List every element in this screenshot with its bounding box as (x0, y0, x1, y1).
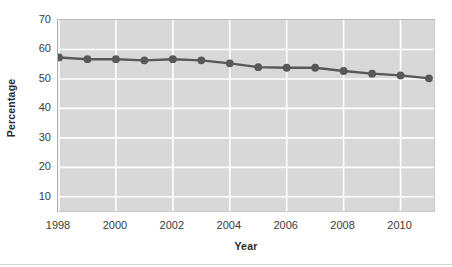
x-axis-tick-label: 2008 (330, 219, 354, 231)
data-point-marker (368, 70, 376, 78)
data-point-marker (311, 64, 319, 72)
x-axis-tick-label: 2004 (217, 219, 241, 231)
y-axis-tick-label: 30 (18, 131, 56, 143)
y-axis-tick-label: 70 (18, 13, 56, 25)
data-point-marker (254, 63, 262, 71)
x-axis-tick-label: 2010 (387, 219, 411, 231)
x-axis-tick-label: 2002 (160, 219, 184, 231)
line-chart-figure: Percentage 70605040302010 19982000200220… (0, 0, 452, 267)
plot-svg (58, 20, 434, 211)
plot-area (57, 19, 435, 212)
y-axis-tick-label: 10 (18, 190, 56, 202)
data-point-marker (169, 55, 177, 63)
y-axis-tick-label: 40 (18, 101, 56, 113)
data-point-marker (226, 59, 234, 67)
horizontal-gridlines (58, 49, 434, 196)
data-point-markers (58, 54, 433, 83)
y-axis-title-label: Percentage (5, 78, 17, 137)
x-axis-title: Year (57, 240, 435, 252)
y-axis-tick-label: 20 (18, 160, 56, 172)
data-point-marker (397, 72, 405, 80)
data-point-marker (340, 67, 348, 75)
x-axis-tick-labels: 1998200020022004200620082010 (0, 219, 452, 239)
data-point-marker (112, 55, 120, 63)
bottom-divider (0, 264, 452, 265)
x-axis-tick-label: 2000 (103, 219, 127, 231)
y-axis-tick-label: 60 (18, 42, 56, 54)
x-axis-tick-label: 2006 (273, 219, 297, 231)
data-point-marker (84, 55, 92, 63)
data-point-marker (197, 56, 205, 64)
y-axis-tick-label: 50 (18, 72, 56, 84)
data-point-marker (283, 64, 291, 72)
data-point-marker (425, 74, 433, 82)
vertical-gridlines (59, 20, 401, 211)
data-point-marker (58, 54, 63, 62)
data-point-marker (140, 56, 148, 64)
x-axis-tick-label: 1998 (46, 219, 70, 231)
